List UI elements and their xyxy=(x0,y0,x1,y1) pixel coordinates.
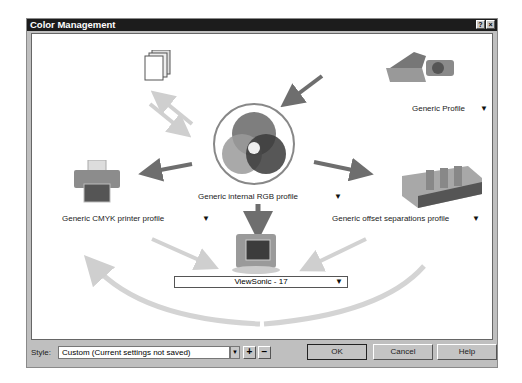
color-management-dialog: Color Management ? × xyxy=(26,18,498,368)
documents-icon[interactable] xyxy=(144,50,174,82)
close-button[interactable]: × xyxy=(486,20,495,29)
offset-press-icon[interactable] xyxy=(398,164,484,210)
workflow-diagram: Generic Profile ▼ Generic internal RGB p… xyxy=(31,33,493,340)
monitor-profile-dropdown-icon[interactable]: ▼ xyxy=(335,277,343,287)
monitor-profile-select[interactable]: ViewSonic - 17 ▼ xyxy=(174,276,348,288)
input-profile-dropdown-icon[interactable]: ▼ xyxy=(480,104,488,113)
arc-right xyxy=(264,266,424,324)
separations-profile-dropdown-icon[interactable]: ▼ xyxy=(472,214,480,223)
printer-icon[interactable] xyxy=(70,160,126,204)
arc-left xyxy=(94,266,260,324)
help-button[interactable]: Help xyxy=(437,344,497,360)
arrow-rgb-to-docs xyxy=(160,98,192,124)
add-style-button[interactable]: + xyxy=(243,346,256,359)
style-label: Style: xyxy=(31,348,51,357)
monitor-profile-value: ViewSonic - 17 xyxy=(234,277,287,286)
remove-style-button[interactable]: − xyxy=(258,346,271,359)
help-title-button[interactable]: ? xyxy=(476,20,485,29)
working-profile-dropdown-icon[interactable]: ▼ xyxy=(334,192,342,201)
title-bar: Color Management ? × xyxy=(27,19,497,31)
style-dropdown-button[interactable]: ▼ xyxy=(230,346,240,359)
ok-button[interactable]: OK xyxy=(307,344,367,360)
arrow-docs-to-rgb xyxy=(150,104,182,130)
input-profile-label[interactable]: Generic Profile xyxy=(412,104,465,113)
separations-profile-label[interactable]: Generic offset separations profile xyxy=(332,214,449,223)
printer-profile-dropdown-icon[interactable]: ▼ xyxy=(202,214,210,223)
arrow-rgb-to-separations xyxy=(314,162,362,172)
arrow-separations-to-monitor xyxy=(310,239,366,266)
bottom-bar: Style: Custom (Current settings not save… xyxy=(31,343,493,363)
scanner-camera-icon[interactable] xyxy=(384,46,464,86)
style-select[interactable]: Custom (Current settings not saved) xyxy=(58,346,230,359)
arrow-input-to-rgb xyxy=(290,76,322,100)
arrow-printer-to-monitor xyxy=(152,239,208,264)
printer-profile-label[interactable]: Generic CMYK printer profile xyxy=(62,214,164,223)
window-title: Color Management xyxy=(30,19,116,30)
cancel-button[interactable]: Cancel xyxy=(373,344,433,360)
rgb-circles-icon[interactable] xyxy=(212,102,296,186)
arrow-rgb-to-printer xyxy=(150,164,192,172)
monitor-icon[interactable] xyxy=(228,232,284,274)
working-profile-label[interactable]: Generic internal RGB profile xyxy=(198,192,298,201)
